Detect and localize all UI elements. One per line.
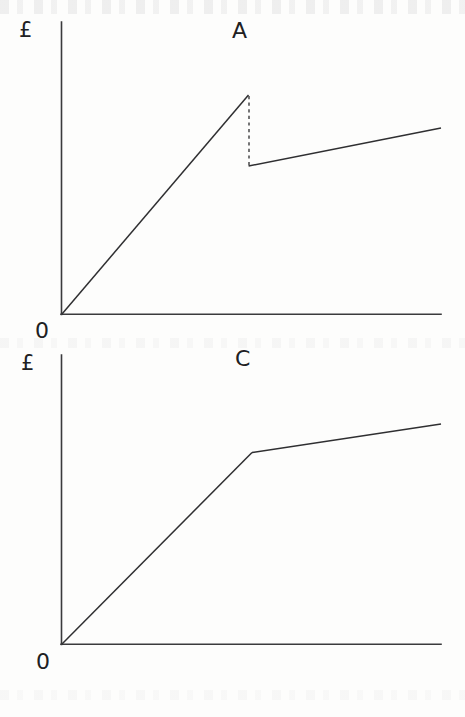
chart-a-plot [0, 0, 465, 350]
chart-c-origin-label: 0 [36, 651, 50, 673]
figure-page: £ A 0 £ C 0 [0, 0, 465, 717]
chart-c-plot [0, 333, 465, 717]
chart-panel-c: £ C 0 [0, 333, 465, 717]
chart-a-series-rising [62, 95, 249, 314]
chart-a-title: A [232, 20, 247, 42]
chart-c-series-rising [62, 453, 252, 645]
chart-c-title: C [235, 348, 250, 370]
chart-a-y-axis-label: £ [19, 20, 32, 41]
chart-c-series-shallow [252, 424, 441, 453]
chart-c-y-axis-label: £ [21, 353, 34, 374]
chart-a-series-shallow [249, 128, 441, 166]
chart-panel-a: £ A 0 [0, 0, 465, 350]
